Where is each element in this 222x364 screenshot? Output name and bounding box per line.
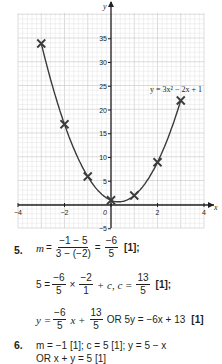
fraction: 135 <box>90 308 103 331</box>
fraction: 135 <box>136 273 149 296</box>
q6-line1: m = −1 [1]; c = 5 [1]; y = 5 − x <box>36 340 166 351</box>
svg-text:4: 4 <box>202 209 206 216</box>
tick-labels: −4−2024−55101520253035 <box>14 35 206 232</box>
axes <box>18 1 214 228</box>
svg-text:35: 35 <box>99 35 107 42</box>
fraction: −65 <box>105 236 118 259</box>
fraction: −65 <box>53 308 66 331</box>
question-5-number: 5. <box>14 244 23 256</box>
svg-text:30: 30 <box>99 59 107 66</box>
quadratic-graph: −4−2024−55101520253035 y = 3x² − 2x + 1 … <box>0 0 222 236</box>
fraction: −65 <box>52 273 65 296</box>
x-axis-label: x <box>213 203 218 212</box>
svg-text:0: 0 <box>103 209 107 216</box>
svg-text:5: 5 <box>103 178 107 185</box>
q6-line2: OR x + y = 5 [1] <box>36 353 106 364</box>
svg-text:2: 2 <box>156 209 160 216</box>
y-axis-label: y <box>102 2 107 11</box>
svg-text:15: 15 <box>99 130 107 137</box>
svg-text:10: 10 <box>99 154 107 161</box>
svg-text:20: 20 <box>99 107 107 114</box>
fraction: −1 − 53 − (−2) <box>56 236 91 259</box>
question-6-number: 6. <box>14 339 23 351</box>
svg-text:−5: −5 <box>99 225 107 232</box>
svg-text:−4: −4 <box>14 209 22 216</box>
equation-label: y = 3x² − 2x + 1 <box>150 85 202 94</box>
q5-line1: m = −1 − 53 − (−2) = −65 [1]; <box>36 236 140 259</box>
svg-text:25: 25 <box>99 83 107 90</box>
svg-text:−2: −2 <box>61 209 69 216</box>
q5-line2: 5 = −65 × −21 + c, c = 135 [1]; <box>36 273 171 296</box>
fraction: −21 <box>79 273 92 296</box>
q5-line3: y = −65 x + 135 OR 5y = −6x + 13 [1] <box>36 308 204 331</box>
